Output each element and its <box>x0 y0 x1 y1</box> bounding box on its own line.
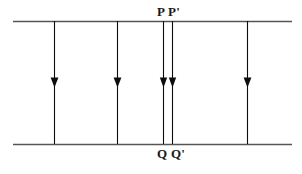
label-qq-prime: Q Q' <box>157 147 185 160</box>
label-pp-prime: P P' <box>157 5 180 18</box>
diagram-figure: P P' Q Q' <box>0 0 302 174</box>
field-line-diagram <box>0 0 302 174</box>
diagram-background <box>0 0 302 174</box>
